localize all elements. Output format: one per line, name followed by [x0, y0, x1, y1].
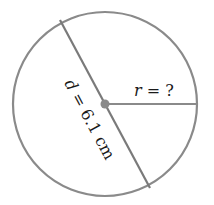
- radius-label: r = ?: [134, 81, 174, 100]
- circle-diagram: r = ? d = 6.1 cm: [0, 0, 214, 205]
- center-point: [101, 100, 110, 109]
- diameter-value: = 6.1 cm: [65, 85, 119, 163]
- diameter-label: d = 6.1 cm: [60, 76, 119, 163]
- radius-value: = ?: [142, 81, 174, 100]
